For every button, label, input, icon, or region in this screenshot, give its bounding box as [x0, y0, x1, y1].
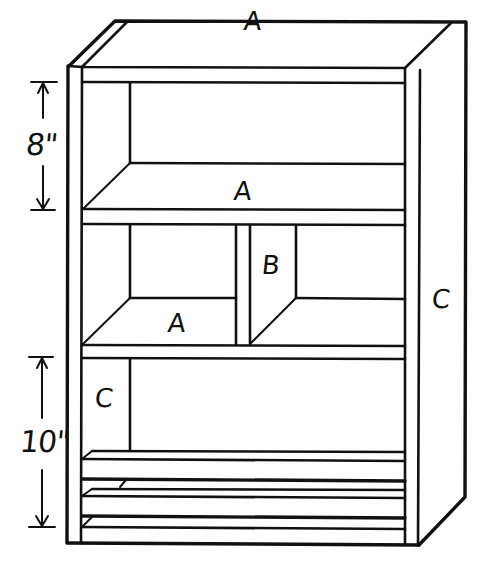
middle-shelf — [82, 345, 405, 359]
label-upper-shelf-a: A — [233, 178, 254, 204]
label-top-a: A — [243, 8, 264, 34]
label-bottom-left-c: C — [94, 385, 115, 411]
dimension-label-8in: 8" — [24, 130, 58, 160]
bottom-boards — [82, 451, 405, 529]
label-right-side-c: C — [431, 286, 452, 312]
upper-shelf — [82, 209, 405, 225]
bookcase-drawing — [0, 0, 501, 577]
label-lower-left-shelf-a: A — [167, 310, 188, 336]
divider-panel — [236, 225, 405, 344]
left-post — [67, 66, 82, 542]
label-divider-b: B — [261, 252, 282, 278]
middle-left-compartment — [83, 225, 236, 344]
dimension-label-10in: 10" — [18, 427, 70, 457]
base-line — [67, 543, 419, 545]
